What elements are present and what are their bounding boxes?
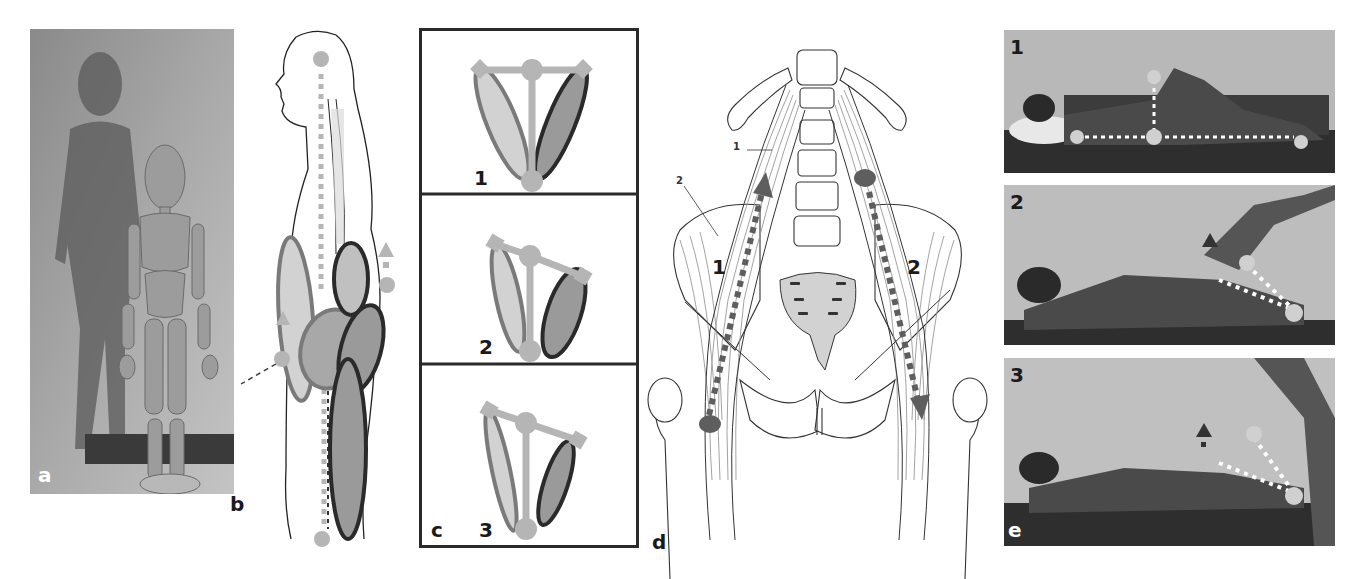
muscle-label-1: 1 <box>712 255 726 279</box>
test-label-1: 1 <box>1010 35 1024 59</box>
panel-label-b: b <box>230 492 244 516</box>
pelvis-schematic-diagrams <box>419 28 639 548</box>
test-photo-1: 1 <box>1004 30 1335 173</box>
panel-label-c: c <box>431 518 443 542</box>
test-photo-3: 3 e <box>1004 358 1335 546</box>
leader-label-2: 2 <box>676 175 683 186</box>
marker-dot-1-icon <box>699 415 721 433</box>
panel-a-photo: a <box>30 29 234 494</box>
test-label-2: 2 <box>1010 190 1024 214</box>
test-photo-2: 2 <box>1004 185 1335 345</box>
up-arrow-icon <box>1196 423 1212 437</box>
muscle-label-2: 2 <box>907 255 921 279</box>
panel-d-anatomy: 1 2 1 2 d <box>640 0 995 579</box>
schematic-label-3: 3 <box>479 518 493 542</box>
arrow-down-2-icon <box>910 394 930 420</box>
mannequin-photo <box>30 29 234 494</box>
panel-label-a: a <box>38 463 52 487</box>
up-arrow-icon <box>378 242 394 257</box>
leader-label-1: 1 <box>733 141 740 152</box>
up-arrow-icon <box>1202 233 1218 247</box>
panel-b-body-diagram: b <box>236 29 416 549</box>
schematic-label-2: 2 <box>479 335 493 359</box>
panel-c-schematics: 1 2 3 c <box>419 28 639 548</box>
marker-dot-2-icon <box>854 169 876 187</box>
test-label-3: 3 <box>1010 363 1024 387</box>
lumbar-pelvis-anatomy <box>640 0 995 579</box>
panel-label-d: d <box>652 530 666 554</box>
panel-e-photos: 1 2 3 e <box>1004 30 1335 546</box>
foot-marker-icon <box>314 531 330 547</box>
body-outline-diagram <box>236 29 416 549</box>
head-marker-icon <box>313 51 329 67</box>
panel-label-e: e <box>1008 518 1022 542</box>
schematic-label-1: 1 <box>474 166 488 190</box>
